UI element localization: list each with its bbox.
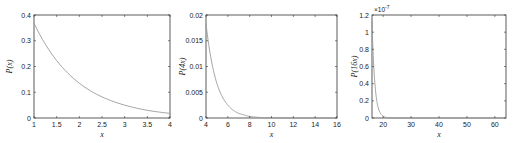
y-tick-label: 1 xyxy=(365,29,369,36)
x-tick-label: 3.5 xyxy=(142,121,152,128)
x-tick-label: 4 xyxy=(204,121,208,128)
x-tick-label: 3 xyxy=(123,121,127,128)
x-tick-label: 60 xyxy=(491,121,499,128)
y-tick-label: 0.6 xyxy=(359,63,369,70)
y-tick-label: 0.01 xyxy=(189,63,203,70)
y-tick-label: 0 xyxy=(199,115,203,122)
y-tick-label: 1.2 xyxy=(359,12,369,19)
y-axis-label: P(4x) xyxy=(178,57,187,76)
y-tick-label: 0.2 xyxy=(359,97,369,104)
y-tick-label: 0.015 xyxy=(185,37,203,44)
chart-1: 11.522.533.5400.10.20.30.4xP(x) xyxy=(5,12,172,140)
x-tick-label: 50 xyxy=(463,121,471,128)
x-tick-label: 40 xyxy=(435,121,443,128)
chart-2: 4681012141600.0050.010.0150.02xP(4x) xyxy=(178,12,341,140)
x-tick-label: 20 xyxy=(379,121,387,128)
x-axis-label: x xyxy=(99,130,104,139)
y-tick-label: 0.2 xyxy=(21,63,31,70)
figure: 11.522.533.5400.10.20.30.4xP(x)468101214… xyxy=(0,0,520,143)
y-tick-label: 0 xyxy=(365,115,369,122)
y-tick-label: 0.02 xyxy=(189,12,203,19)
x-tick-label: 2 xyxy=(77,121,81,128)
x-axis-label: x xyxy=(269,130,274,139)
y-tick-label: 0.4 xyxy=(21,12,31,19)
plot-area xyxy=(34,15,170,118)
x-tick-label: 2.5 xyxy=(97,121,107,128)
x-tick-label: 1 xyxy=(32,121,36,128)
plot-area xyxy=(372,15,506,118)
y-tick-label: 0.1 xyxy=(21,89,31,96)
x-tick-label: 6 xyxy=(226,121,230,128)
x-tick-label: 16 xyxy=(333,121,341,128)
x-tick-label: 30 xyxy=(407,121,415,128)
y-exponent-label: ×10-7 xyxy=(374,4,390,13)
y-tick-label: 0 xyxy=(27,115,31,122)
x-tick-label: 8 xyxy=(248,121,252,128)
y-tick-label: 0.4 xyxy=(359,80,369,87)
chart-3: 203040506000.20.40.60.811.2xP(16x)×10-7 xyxy=(350,4,506,139)
y-tick-label: 0.005 xyxy=(185,89,203,96)
y-tick-label: 0.3 xyxy=(21,37,31,44)
x-tick-label: 10 xyxy=(268,121,276,128)
y-axis-label: P(x) xyxy=(5,59,14,74)
y-axis-label: P(16x) xyxy=(350,55,359,78)
x-tick-label: 14 xyxy=(311,121,319,128)
x-tick-label: 4 xyxy=(168,121,172,128)
x-tick-label: 12 xyxy=(289,121,297,128)
x-tick-label: 1.5 xyxy=(52,121,62,128)
x-axis-label: x xyxy=(436,130,441,139)
y-tick-label: 0.8 xyxy=(359,46,369,53)
